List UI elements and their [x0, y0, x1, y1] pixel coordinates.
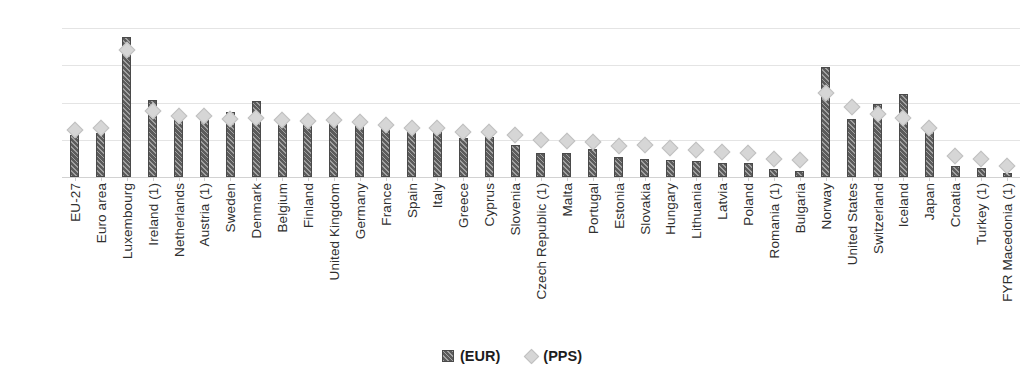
marker-pps[interactable] [791, 152, 808, 169]
bar-eur[interactable] [795, 171, 804, 177]
bar-eur[interactable] [278, 121, 287, 177]
marker-pps[interactable] [947, 147, 964, 164]
bar-eur[interactable] [200, 118, 209, 177]
marker-pps[interactable] [299, 113, 316, 130]
bar-eur[interactable] [588, 149, 597, 177]
chart-column[interactable] [166, 28, 192, 177]
bar-eur[interactable] [666, 160, 675, 177]
marker-pps[interactable] [274, 112, 291, 129]
bar-eur[interactable] [744, 163, 753, 177]
marker-pps[interactable] [921, 119, 938, 136]
legend-item-eur[interactable]: (EUR) [442, 348, 500, 364]
bar-eur[interactable] [769, 169, 778, 177]
marker-pps[interactable] [66, 122, 83, 139]
marker-pps[interactable] [144, 102, 161, 119]
chart-column[interactable] [62, 28, 88, 177]
x-axis-tick [891, 177, 917, 182]
chart-column[interactable] [347, 28, 373, 177]
bar-eur[interactable] [96, 133, 105, 177]
marker-pps[interactable] [817, 85, 834, 102]
bar-eur[interactable] [718, 163, 727, 177]
chart-column[interactable] [787, 28, 813, 177]
marker-pps[interactable] [636, 137, 653, 154]
chart-column[interactable] [968, 28, 994, 177]
bar-eur[interactable] [562, 153, 571, 177]
chart-column[interactable] [424, 28, 450, 177]
marker-pps[interactable] [196, 108, 213, 125]
bar-eur[interactable] [847, 119, 856, 177]
bar-eur[interactable] [70, 135, 79, 177]
marker-pps[interactable] [351, 114, 368, 131]
marker-pps[interactable] [558, 132, 575, 149]
marker-pps[interactable] [222, 111, 239, 128]
bar-eur[interactable] [977, 168, 986, 177]
chart-column[interactable] [399, 28, 425, 177]
chart-column[interactable] [373, 28, 399, 177]
chart-column[interactable] [476, 28, 502, 177]
chart-column[interactable] [839, 28, 865, 177]
marker-pps[interactable] [325, 112, 342, 129]
chart-column[interactable] [295, 28, 321, 177]
marker-pps[interactable] [584, 133, 601, 150]
chart-column[interactable] [580, 28, 606, 177]
marker-pps[interactable] [765, 151, 782, 168]
marker-pps[interactable] [403, 119, 420, 136]
chart-column[interactable] [761, 28, 787, 177]
bar-eur[interactable] [951, 166, 960, 177]
chart-column[interactable] [865, 28, 891, 177]
marker-pps[interactable] [610, 138, 627, 155]
marker-pps[interactable] [92, 119, 109, 136]
marker-pps[interactable] [118, 42, 135, 59]
chart-column[interactable] [994, 28, 1020, 177]
marker-pps[interactable] [507, 127, 524, 144]
chart-column[interactable] [632, 28, 658, 177]
marker-pps[interactable] [843, 99, 860, 116]
chart-column[interactable] [191, 28, 217, 177]
marker-pps[interactable] [481, 124, 498, 141]
chart-column[interactable] [114, 28, 140, 177]
marker-pps[interactable] [455, 124, 472, 141]
chart-column[interactable] [321, 28, 347, 177]
chart-column[interactable] [813, 28, 839, 177]
marker-pps[interactable] [662, 140, 679, 157]
marker-pps[interactable] [377, 116, 394, 133]
chart-column[interactable] [269, 28, 295, 177]
chart-column[interactable] [709, 28, 735, 177]
chart-column[interactable] [657, 28, 683, 177]
marker-pps[interactable] [429, 119, 446, 136]
marker-pps[interactable] [895, 110, 912, 127]
x-axis-label: Croatia [948, 183, 963, 227]
marker-pps[interactable] [688, 142, 705, 159]
bar-eur[interactable] [899, 94, 908, 177]
chart-column[interactable] [683, 28, 709, 177]
chart-column[interactable] [140, 28, 166, 177]
bar-eur[interactable] [614, 157, 623, 177]
marker-pps[interactable] [532, 131, 549, 148]
chart-column[interactable] [502, 28, 528, 177]
marker-pps[interactable] [999, 157, 1016, 174]
marker-pps[interactable] [714, 143, 731, 160]
chart-column[interactable] [88, 28, 114, 177]
bar-eur[interactable] [692, 161, 701, 177]
chart-column[interactable] [891, 28, 917, 177]
bar-eur[interactable] [459, 138, 468, 177]
bar-eur[interactable] [485, 137, 494, 177]
legend-item-pps[interactable]: (PPS) [526, 348, 582, 364]
chart-column[interactable] [450, 28, 476, 177]
chart-column[interactable] [217, 28, 243, 177]
chart-column[interactable] [554, 28, 580, 177]
marker-pps[interactable] [740, 144, 757, 161]
bar-eur[interactable] [536, 153, 545, 177]
chart-column[interactable] [916, 28, 942, 177]
chart-column[interactable] [735, 28, 761, 177]
marker-pps[interactable] [973, 151, 990, 168]
chart-column[interactable] [528, 28, 554, 177]
bar-eur[interactable] [640, 159, 649, 177]
chart-column[interactable] [942, 28, 968, 177]
chart-column[interactable] [243, 28, 269, 177]
bar-eur[interactable] [511, 145, 520, 177]
marker-pps[interactable] [170, 107, 187, 124]
chart-column[interactable] [606, 28, 632, 177]
marker-pps[interactable] [248, 110, 265, 127]
marker-pps[interactable] [869, 105, 886, 122]
